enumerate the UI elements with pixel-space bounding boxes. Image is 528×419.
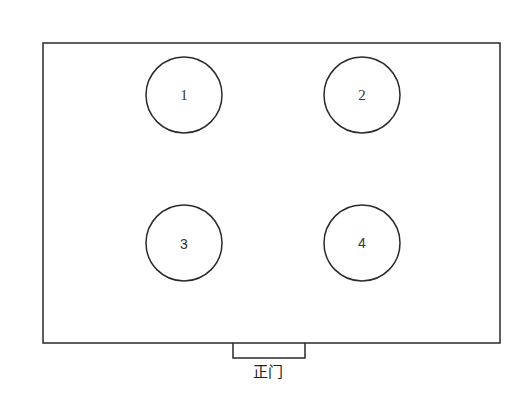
- circle-2-label: 2: [358, 87, 366, 103]
- circle-2: 2: [324, 57, 400, 133]
- circle-1: 1: [146, 57, 222, 133]
- main-door-label: 正门: [253, 363, 283, 381]
- circle-3-label: 3: [180, 236, 188, 252]
- circle-1-label: 1: [180, 87, 188, 103]
- main-door: [233, 343, 305, 358]
- circle-3: 3: [146, 205, 222, 281]
- floor-plan-diagram: 1 2 3 4 正门: [0, 0, 528, 419]
- room-outline: [43, 43, 500, 343]
- circle-4: 4: [324, 205, 400, 281]
- circle-4-label: 4: [358, 235, 366, 251]
